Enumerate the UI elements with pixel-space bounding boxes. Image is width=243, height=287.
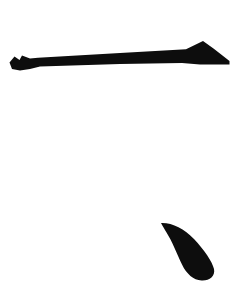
canvas-background xyxy=(0,0,243,287)
silhouette-canvas: Tapered horizontal bar with triangular a… xyxy=(0,0,243,287)
shape-canvas-svg: Tapered horizontal bar with triangular a… xyxy=(0,0,243,287)
